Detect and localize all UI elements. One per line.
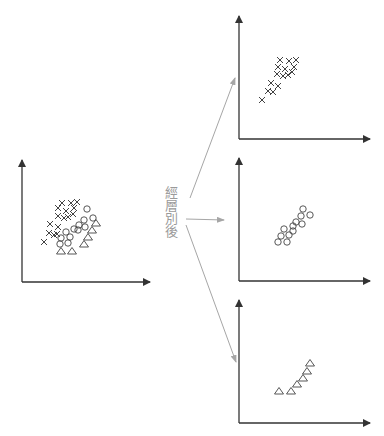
cross-marker bbox=[55, 213, 61, 219]
triangle-marker bbox=[68, 248, 77, 255]
circle-marker bbox=[299, 221, 305, 227]
circle-marker bbox=[284, 239, 290, 245]
triangle-marker bbox=[293, 381, 302, 388]
circle-marker bbox=[57, 241, 63, 247]
arrow bbox=[190, 78, 235, 198]
circle-marker bbox=[281, 226, 287, 232]
cross-marker bbox=[259, 97, 265, 103]
triangle-marker bbox=[88, 227, 97, 234]
cross-marker bbox=[282, 66, 288, 72]
cross-marker bbox=[55, 224, 61, 230]
circle-marker bbox=[298, 213, 304, 219]
cross-marker bbox=[41, 239, 47, 245]
cross-marker bbox=[274, 71, 280, 77]
triangle-marker bbox=[57, 248, 66, 255]
circle-marker bbox=[84, 206, 90, 212]
cross-marker bbox=[293, 57, 299, 63]
cross-marker bbox=[270, 89, 276, 95]
circle-marker bbox=[286, 232, 292, 238]
arrow bbox=[186, 219, 224, 220]
circle-marker bbox=[275, 239, 281, 245]
cross-marker bbox=[55, 205, 61, 211]
cross-marker bbox=[74, 199, 80, 205]
cross-marker bbox=[289, 69, 295, 75]
circle-marker bbox=[71, 226, 77, 232]
triangle-marker bbox=[275, 388, 284, 395]
cross-marker bbox=[285, 72, 291, 78]
stratification-label: 經層別後 bbox=[162, 186, 178, 238]
cross-marker bbox=[47, 221, 53, 227]
circle-marker bbox=[307, 212, 313, 218]
cross-marker bbox=[275, 83, 281, 89]
stratification-diagram bbox=[0, 0, 384, 436]
cross-marker bbox=[63, 208, 69, 214]
circle-marker bbox=[67, 234, 73, 240]
cross-marker bbox=[286, 58, 292, 64]
circle-marker bbox=[58, 235, 64, 241]
circle-marker bbox=[82, 224, 88, 230]
circle-marker bbox=[300, 206, 306, 212]
cross-marker bbox=[61, 215, 67, 221]
triangle-marker bbox=[92, 220, 101, 227]
cross-marker bbox=[275, 64, 281, 70]
cross-marker bbox=[59, 200, 65, 206]
scatter-plot-stratum-cross bbox=[239, 16, 370, 139]
triangle-marker bbox=[306, 360, 315, 367]
triangle-marker bbox=[80, 241, 89, 248]
cross-marker bbox=[277, 57, 283, 63]
triangle-marker bbox=[287, 388, 296, 395]
arrow bbox=[186, 225, 236, 362]
circle-marker bbox=[65, 240, 71, 246]
triangle-marker bbox=[299, 375, 308, 382]
triangle-marker bbox=[84, 234, 93, 241]
circle-marker bbox=[278, 233, 284, 239]
cross-marker bbox=[46, 230, 52, 236]
scatter-plot-stratum-triangle bbox=[239, 300, 370, 423]
stratification-arrows bbox=[186, 78, 236, 362]
scatter-plot-combined bbox=[22, 160, 150, 282]
circle-marker bbox=[81, 217, 87, 223]
cross-marker bbox=[291, 64, 297, 70]
triangle-marker bbox=[303, 368, 312, 375]
scatter-plot-stratum-circle bbox=[239, 158, 370, 281]
cross-marker bbox=[268, 80, 274, 86]
